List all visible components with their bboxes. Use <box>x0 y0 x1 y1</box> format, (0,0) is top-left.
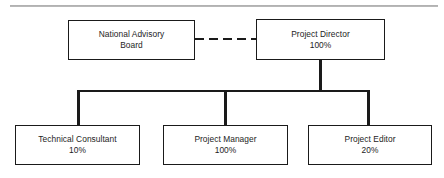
connector-drop-technical-consultant <box>77 90 80 126</box>
node-allocation: 100% <box>215 145 237 156</box>
connector-drop-project-editor <box>367 90 370 126</box>
node-project-editor[interactable]: Project Editor 20% <box>308 125 432 165</box>
node-label-line1: Project Manager <box>194 134 256 145</box>
node-allocation: 100% <box>310 40 332 51</box>
node-label-line1: Technical Consultant <box>38 134 116 145</box>
node-allocation: 10% <box>69 145 86 156</box>
dashed-connector-advisory-to-director <box>195 38 256 40</box>
org-chart-canvas: National Advisory Board Project Director… <box>0 0 444 178</box>
node-technical-consultant[interactable]: Technical Consultant 10% <box>15 125 140 165</box>
connector-director-stem <box>319 60 322 91</box>
node-label-line1: Project Director <box>291 29 350 40</box>
node-national-advisory-board[interactable]: National Advisory Board <box>68 20 195 60</box>
node-allocation: 20% <box>362 145 379 156</box>
node-project-director[interactable]: Project Director 100% <box>256 19 385 60</box>
node-project-manager[interactable]: Project Manager 100% <box>163 125 288 165</box>
node-label-line1: National Advisory <box>99 29 165 40</box>
node-label-line1: Project Editor <box>345 134 396 145</box>
page-top-rule <box>10 5 438 7</box>
node-label-line2: Board <box>120 40 143 51</box>
connector-drop-project-manager <box>224 90 227 126</box>
